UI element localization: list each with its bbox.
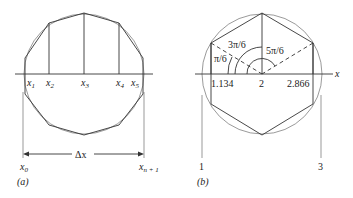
label-pi6: π/6: [214, 53, 227, 64]
arrowhead-right: [138, 152, 144, 157]
label-3pi6: 3π/6: [228, 39, 246, 50]
tick-1134: 1.134: [211, 78, 234, 89]
axis-label-x: x: [334, 68, 340, 79]
panel-b: π/6 3π/6 5π/6 x 1.134 2 2.866 1 3 (b): [195, 13, 340, 188]
label-x3: x3: [80, 77, 89, 90]
tick-2: 2: [259, 78, 264, 89]
label-delta-x: Δx: [75, 149, 86, 160]
tick-2866: 2.866: [287, 78, 310, 89]
label-x1: x1: [26, 77, 35, 90]
label-x5: x5: [130, 77, 139, 90]
panel-a: x1 x2 x3 x4 x5 Δx x0 xn + 1 (a): [15, 13, 159, 188]
label-bound-3: 3: [318, 161, 323, 172]
arrowhead-left: [23, 152, 29, 157]
label-5pi6: 5π/6: [266, 45, 284, 56]
label-bound-1: 1: [199, 161, 204, 172]
angle-arc-3pi6: [235, 47, 262, 74]
caption-a: (a): [17, 176, 29, 188]
angle-arc-pi6: [228, 57, 232, 74]
caption-b: (b): [197, 176, 209, 188]
label-xn1: xn + 1: [138, 161, 159, 174]
label-x0: x0: [19, 161, 28, 174]
diagram-canvas: x1 x2 x3 x4 x5 Δx x0 xn + 1 (a) π/6 3π/6…: [0, 0, 353, 198]
label-x4: x4: [115, 77, 124, 90]
angle-arc-5pi6: [247, 58, 275, 74]
label-x2: x2: [45, 77, 54, 90]
